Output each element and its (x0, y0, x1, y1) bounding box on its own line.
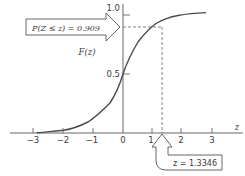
y-tick-labels: 0.5 1.0 (106, 3, 120, 79)
z-callout-text: z = 1.3346 (173, 159, 217, 168)
x-tick-label: 1 (148, 135, 153, 145)
y-tick-label: 1.0 (106, 3, 120, 13)
x-tick-label: 2 (178, 135, 183, 145)
x-tick-label: 3 (209, 135, 214, 145)
x-tick-label: −3 (27, 135, 40, 145)
x-tick-label: −2 (57, 135, 70, 145)
x-tick-label: −1 (86, 135, 99, 145)
x-axis-label: z (234, 122, 240, 132)
probability-callout: P(Z ≤ z) = 0.909 (26, 13, 120, 41)
reference-lines (123, 27, 162, 133)
y-tick-label: 0.5 (106, 69, 120, 79)
probability-callout-text: P(Z ≤ z) = 0.909 (31, 24, 100, 33)
x-tick-labels: −3 −2 −1 0 1 2 3 (27, 135, 215, 145)
x-tick-label: 0 (120, 135, 125, 145)
y-axis-label: F(z) (77, 47, 95, 57)
cdf-chart: −3 −2 −1 0 1 2 3 0.5 1.0 z F(z) P(Z ≤ z)… (0, 0, 245, 176)
